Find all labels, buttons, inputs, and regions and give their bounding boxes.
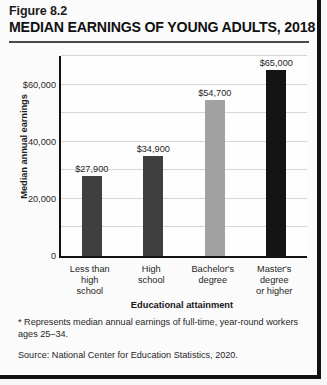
- bar-slot: $34,900: [123, 56, 185, 256]
- bar-series: $27,900$34,900$54,700$65,000: [61, 56, 307, 256]
- y-axis-tick-label: 0: [0, 251, 56, 261]
- figure-notes: * Represents median annual earnings of f…: [18, 316, 300, 362]
- y-axis-ticks: 020,00040,000$60,000: [0, 48, 56, 258]
- x-axis-category-label: Highschool: [121, 264, 183, 286]
- x-axis-category-label: Bachelor'sdegree: [182, 264, 244, 286]
- x-axis-category-line: High: [121, 264, 183, 275]
- bar-slot: $27,900: [61, 56, 123, 256]
- y-axis-tick-label: $60,000: [0, 80, 56, 90]
- figure-frame: Figure 8.2 MEDIAN EARNINGS OF YOUNG ADUL…: [0, 0, 321, 379]
- x-axis-category-label: Less thanhighschool: [59, 264, 121, 298]
- title-divider: [9, 41, 309, 43]
- bar-value-label: $54,700: [198, 88, 231, 98]
- x-axis-category-line: degree: [244, 275, 306, 286]
- figure-container: Figure 8.2 MEDIAN EARNINGS OF YOUNG ADUL…: [0, 0, 327, 385]
- bar-value-label: $34,900: [137, 144, 170, 154]
- footnote-text: * Represents median annual earnings of f…: [18, 316, 300, 340]
- bar-slot: $54,700: [184, 56, 246, 256]
- figure-title: MEDIAN EARNINGS OF YOUNG ADULTS, 2018: [9, 19, 315, 35]
- x-axis-category-line: Bachelor's: [182, 264, 244, 275]
- x-axis-category-line: school: [59, 286, 121, 297]
- bar: [82, 176, 102, 256]
- bar-value-label: $65,000: [260, 58, 293, 68]
- bar-value-label: $27,900: [75, 164, 108, 174]
- y-axis-tick-label: 40,000: [0, 137, 56, 147]
- x-axis-category-line: Less than: [59, 264, 121, 275]
- x-axis-title: Educational attainment: [59, 300, 305, 310]
- bar: [205, 100, 225, 256]
- y-axis-tick-label: 20,000: [0, 194, 56, 204]
- x-axis-category-line: or higher: [244, 286, 306, 297]
- bar-slot: $65,000: [246, 56, 308, 256]
- x-axis-category-line: high: [59, 275, 121, 286]
- plot-area: $27,900$34,900$54,700$65,000: [59, 56, 307, 258]
- source-text: Source: National Center for Education St…: [18, 349, 300, 361]
- x-axis-category-line: school: [121, 275, 183, 286]
- bar: [266, 70, 286, 256]
- figure-number: Figure 8.2: [9, 4, 67, 18]
- x-axis-category-label: Master'sdegreeor higher: [244, 264, 306, 298]
- x-axis-category-line: degree: [182, 275, 244, 286]
- bar-chart: Median annual earnings 020,00040,000$60,…: [0, 48, 321, 308]
- bar: [143, 156, 163, 256]
- x-axis-category-line: Master's: [244, 264, 306, 275]
